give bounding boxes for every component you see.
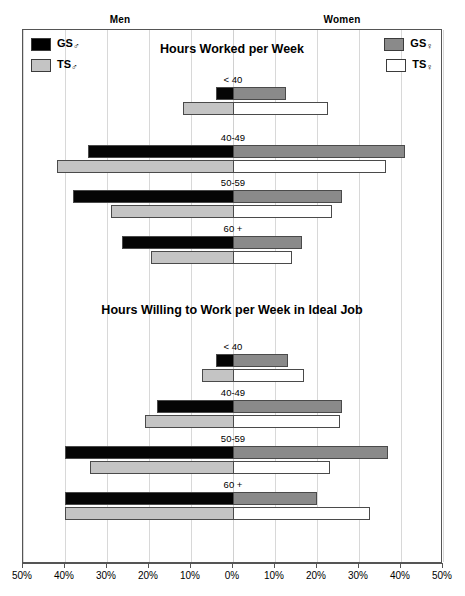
bar-segment-women	[233, 205, 332, 218]
bar-row-top	[23, 190, 441, 203]
bar-segment-men	[65, 507, 234, 520]
bar-group: 60 +	[23, 479, 441, 520]
axis-tick-label-4: 10%	[180, 570, 200, 581]
plot-area: GS♂ TS♂ GS♀ TS♀ Hours Worked per Week Ho…	[22, 29, 442, 563]
bar-group-label: < 40	[224, 74, 243, 85]
axis-tick-label-2: 30%	[96, 570, 116, 581]
axis-tick-label-3: 20%	[138, 570, 158, 581]
axis-tick-label-0: 50%	[12, 570, 32, 581]
bar-row-bottom	[23, 415, 441, 428]
bar-group: < 40	[23, 341, 441, 382]
bar-group: 40-49	[23, 132, 441, 173]
bar-group-label: < 40	[224, 341, 243, 352]
bar-segment-men	[90, 461, 234, 474]
bar-segment-men	[216, 354, 234, 367]
axis-tick-0	[22, 563, 23, 568]
axis-tick-label-6: 10%	[264, 570, 284, 581]
bar-segment-women	[233, 400, 342, 413]
bar-segment-women	[233, 102, 328, 115]
bar-segment-men	[157, 400, 234, 413]
axis-tick-3	[148, 563, 149, 568]
axis-tick-label-8: 30%	[348, 570, 368, 581]
bar-segment-men	[73, 190, 234, 203]
bar-segment-men	[202, 369, 235, 382]
axis-tick-9	[400, 563, 401, 568]
bar-segment-men	[65, 492, 234, 505]
bar-segment-men	[183, 102, 234, 115]
bar-group-label: 50-59	[221, 433, 245, 444]
bar-row-top	[23, 492, 441, 505]
axis-tick-8	[358, 563, 359, 568]
legend-item-ts-female: TS♀	[384, 57, 433, 74]
axis-tick-2	[106, 563, 107, 568]
axis-tick-label-7: 20%	[306, 570, 326, 581]
bar-segment-men	[65, 446, 234, 459]
legend-label-ts-female: TS♀	[412, 59, 433, 72]
bar-segment-men	[111, 205, 234, 218]
bar-segment-women	[233, 236, 302, 249]
bar-row-top	[23, 446, 441, 459]
bar-segment-women	[233, 145, 405, 158]
axis-tick-label-9: 40%	[390, 570, 410, 581]
bar-segment-men	[216, 87, 234, 100]
bar-segment-women	[233, 354, 288, 367]
bar-segment-women	[233, 251, 292, 264]
axis-tick-1	[64, 563, 65, 568]
bar-segment-men	[57, 160, 234, 173]
bar-group-label: 40-49	[221, 132, 245, 143]
bar-segment-men	[122, 236, 234, 249]
bar-row-bottom	[23, 461, 441, 474]
gridline-50	[443, 30, 444, 562]
bar-row-top	[23, 400, 441, 413]
bar-group-label: 60 +	[224, 223, 243, 234]
bar-row-top	[23, 87, 441, 100]
women-heading: Women	[232, 14, 452, 25]
bar-row-bottom	[23, 369, 441, 382]
bar-row-top	[23, 354, 441, 367]
bar-segment-women	[233, 507, 370, 520]
axis-tick-label-1: 40%	[54, 570, 74, 581]
bar-group: 50-59	[23, 177, 441, 218]
axis-tick-7	[316, 563, 317, 568]
bar-row-bottom	[23, 251, 441, 264]
bar-segment-men	[145, 415, 234, 428]
axis-tick-5	[232, 563, 233, 568]
bar-group: < 40	[23, 74, 441, 115]
legend-swatch-ts-female	[386, 59, 406, 72]
axis-tick-label-5: 0%	[225, 570, 239, 581]
panel-title-hours-ideal: Hours Willing to Work per Week in Ideal …	[23, 303, 441, 317]
bar-row-bottom	[23, 507, 441, 520]
bar-segment-men	[88, 145, 234, 158]
legend-label-ts-male: TS♂	[57, 59, 78, 72]
bar-segment-women	[233, 160, 386, 173]
panel-title-hours-worked: Hours Worked per Week	[23, 42, 441, 56]
bar-segment-women	[233, 87, 286, 100]
bar-row-bottom	[23, 205, 441, 218]
bar-row-top	[23, 145, 441, 158]
bar-group-label: 50-59	[221, 177, 245, 188]
bar-segment-women	[233, 369, 304, 382]
bar-segment-women	[233, 190, 342, 203]
bar-row-bottom	[23, 102, 441, 115]
bar-group-label: 40-49	[221, 387, 245, 398]
axis-tick-10	[442, 563, 443, 568]
bar-segment-women	[233, 415, 340, 428]
bar-group-label: 60 +	[224, 479, 243, 490]
bar-segment-women	[233, 492, 317, 505]
bar-segment-women	[233, 446, 388, 459]
axis-tick-label-10: 50%	[432, 570, 452, 581]
axis-tick-4	[190, 563, 191, 568]
axis-tick-6	[274, 563, 275, 568]
figure-root: Men Women GS♂ TS♂ GS♀ TS♀ Hours Worked	[0, 0, 465, 596]
bar-row-top	[23, 236, 441, 249]
legend-swatch-ts-male	[31, 59, 51, 72]
legend-item-ts-male: TS♂	[31, 57, 80, 74]
men-heading: Men	[0, 14, 240, 25]
bar-group: 50-59	[23, 433, 441, 474]
bar-row-bottom	[23, 160, 441, 173]
bar-segment-women	[233, 461, 330, 474]
bar-group: 60 +	[23, 223, 441, 264]
bar-group: 40-49	[23, 387, 441, 428]
bar-segment-men	[151, 251, 234, 264]
